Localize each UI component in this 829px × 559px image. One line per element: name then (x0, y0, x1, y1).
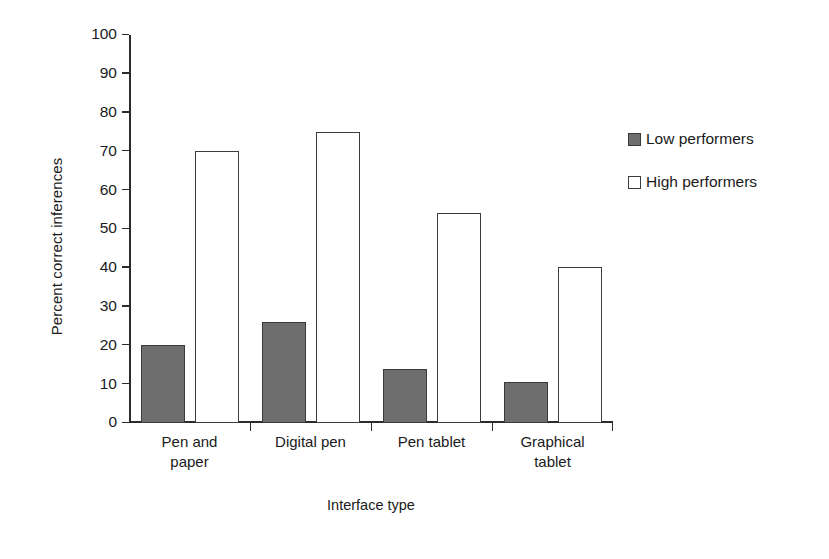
x-axis-separator-tick (492, 423, 493, 431)
bar-high-performers-digital-pen (316, 132, 360, 423)
y-axis-tick-label: 100 (91, 25, 117, 43)
y-axis-tick-label: 60 (100, 181, 117, 199)
y-axis-tick: 40 (122, 266, 129, 267)
y-axis-tick: 20 (122, 344, 129, 345)
legend-item-low-performers: Low performers (628, 130, 757, 148)
bar-low-performers-digital-pen (262, 322, 306, 423)
y-axis-tick-label: 90 (100, 64, 117, 82)
y-axis-tick: 50 (122, 228, 129, 229)
legend-item-high-performers: High performers (628, 173, 757, 191)
legend-label-low-performers: Low performers (646, 130, 754, 148)
y-axis-tick: 70 (122, 150, 129, 151)
legend-swatch-low-performers (628, 133, 641, 146)
bar-high-performers-pen-tablet (437, 213, 481, 423)
x-axis-category-label: Graphicaltablet (492, 432, 613, 472)
y-axis-tick-label: 80 (100, 103, 117, 121)
x-axis-category-label: Digital pen (250, 432, 371, 452)
x-axis-separator-tick (371, 423, 372, 431)
x-axis-separator-tick (250, 423, 251, 431)
x-axis-title: Interface type (129, 497, 613, 513)
bar-high-performers-graphical-tablet (558, 267, 602, 423)
y-axis-tick-label: 50 (100, 219, 117, 237)
chart-legend: Low performers High performers (628, 130, 757, 216)
category-label-line: Digital pen (250, 432, 371, 452)
x-axis-category-label: Pen andpaper (129, 432, 250, 472)
category-label-line: paper (129, 452, 250, 472)
bar-low-performers-graphical-tablet (504, 382, 548, 423)
bar-low-performers-pen-and-paper (141, 345, 185, 423)
y-axis-tick: 10 (122, 383, 129, 384)
y-axis-tick-label: 70 (100, 142, 117, 160)
y-axis-tick-label: 0 (108, 413, 117, 431)
legend-label-high-performers: High performers (646, 173, 757, 191)
y-axis-tick-label: 10 (100, 375, 117, 393)
y-axis-tick: 100 (122, 34, 129, 35)
category-label-line: Graphical (492, 432, 613, 452)
y-axis-tick-label: 40 (100, 258, 117, 276)
category-label-line: Pen and (129, 432, 250, 452)
y-axis-tick: 30 (122, 305, 129, 306)
category-label-line: Pen tablet (371, 432, 492, 452)
y-axis-line (129, 35, 131, 423)
y-axis-tick-label: 30 (100, 297, 117, 315)
category-label-line: tablet (492, 452, 613, 472)
x-axis-separator-tick (612, 423, 613, 431)
y-axis-tick: 90 (122, 72, 129, 73)
plot-area: 0102030405060708090100 (129, 35, 613, 423)
y-axis-tick-label: 20 (100, 336, 117, 354)
y-axis-title: Percent correct inferences (48, 97, 65, 397)
y-axis-tick: 80 (122, 111, 129, 112)
x-axis-category-label: Pen tablet (371, 432, 492, 452)
legend-swatch-high-performers (628, 176, 641, 189)
bar-chart-figure: Percent correct inferences 0102030405060… (0, 0, 829, 559)
y-axis-tick: 60 (122, 189, 129, 190)
y-axis-tick: 0 (122, 422, 129, 423)
bar-high-performers-pen-and-paper (195, 151, 239, 423)
bar-low-performers-pen-tablet (383, 369, 427, 423)
